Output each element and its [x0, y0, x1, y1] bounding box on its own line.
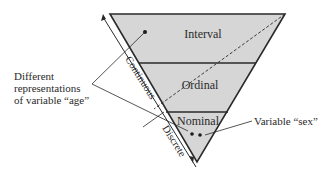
age-annotation-line2: representations — [14, 82, 81, 94]
level-nominal: Nominal — [177, 114, 220, 128]
measurement-levels-diagram: Interval Ordinal Nominal Continuous Disc… — [0, 0, 336, 175]
age-annotation-line1: Different — [14, 70, 54, 82]
sex-annotation: Variable “sex” — [254, 115, 318, 127]
age-dot-nominal-1 — [190, 132, 194, 136]
level-interval: Interval — [184, 27, 222, 41]
age-dot-nominal-2 — [198, 133, 202, 137]
age-annotation-line3: of variable “age” — [14, 94, 89, 106]
